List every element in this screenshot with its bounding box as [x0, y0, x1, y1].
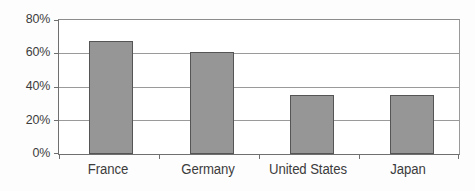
bar-germany[interactable]: [190, 52, 234, 154]
y-axis-tick-label: 40%: [8, 79, 50, 93]
y-axis-tick-40: [54, 87, 59, 88]
x-axis-tick-0: [59, 154, 60, 159]
bar-chart: 80% 60% 40% 20% 0% France Germany United…: [0, 0, 475, 191]
y-axis-tick-label: 20%: [8, 113, 50, 127]
bar-japan[interactable]: [390, 95, 434, 154]
x-axis-label-japan: Japan: [361, 160, 455, 178]
bar-france[interactable]: [89, 41, 133, 154]
x-axis-label-united-states: United States: [261, 160, 355, 178]
y-axis-tick-label: 60%: [8, 45, 50, 59]
y-axis-tick-label: 80%: [8, 12, 50, 26]
y-axis-tick-60: [54, 53, 59, 54]
x-axis-labels: France Germany United States Japan: [58, 160, 458, 184]
x-axis-tick-3: [359, 154, 360, 159]
plot-area: [58, 19, 460, 155]
x-axis-label-france: France: [61, 160, 155, 178]
x-axis-tick-2: [259, 154, 260, 159]
x-axis-tick-4: [458, 154, 459, 159]
bar-united-states[interactable]: [290, 95, 334, 154]
y-axis-tick-label: 0%: [8, 146, 50, 160]
x-axis-tick-1: [159, 154, 160, 159]
x-axis-label-germany: Germany: [161, 160, 255, 178]
y-axis-tick-20: [54, 120, 59, 121]
y-axis-tick-80: [54, 20, 59, 21]
y-axis-labels: 80% 60% 40% 20% 0%: [0, 0, 50, 191]
